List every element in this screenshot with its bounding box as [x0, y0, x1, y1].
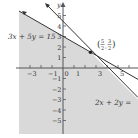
svg-text:3: 3 — [108, 38, 111, 44]
y-axis-label: y — [56, 1, 61, 9]
svg-text:−1: −1 — [52, 75, 62, 83]
svg-text:2: 2 — [57, 44, 61, 52]
intersection-point — [89, 51, 93, 55]
svg-text:(: ( — [97, 39, 101, 49]
svg-text:−4: −4 — [52, 107, 62, 115]
label-2x-2y-8: 2x + 2y = — [94, 98, 131, 107]
svg-text:2: 2 — [108, 45, 111, 51]
y-axis-arrow-icon — [61, 2, 66, 7]
svg-text:1: 1 — [76, 70, 80, 78]
svg-text:3: 3 — [98, 70, 102, 78]
svg-text:5: 5 — [101, 38, 104, 44]
svg-text:): ) — [112, 39, 116, 49]
label-3x-5y-15: 3x + 5y = 15 — [8, 32, 56, 41]
svg-text:−5: −5 — [52, 117, 62, 125]
svg-text:1: 1 — [57, 54, 61, 62]
intersection-label: ( 5 2 , 3 2 ) — [97, 38, 116, 51]
svg-text:−2: −2 — [52, 86, 62, 94]
svg-text:4: 4 — [57, 23, 61, 31]
svg-text:,: , — [105, 43, 107, 49]
svg-text:−3: −3 — [52, 96, 62, 104]
svg-text:−3: −3 — [27, 70, 37, 78]
svg-text:0: 0 — [65, 70, 69, 78]
svg-text:2: 2 — [101, 45, 104, 51]
linear-inequality-graph: −3 −1 0 1 3 5 5 4 3 2 1 −1 −2 −3 −4 −5 y… — [0, 0, 138, 138]
